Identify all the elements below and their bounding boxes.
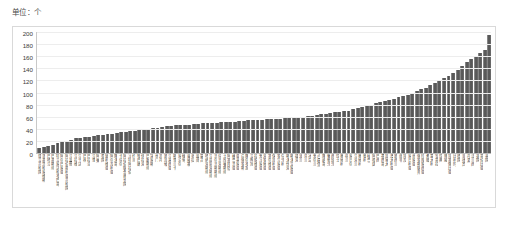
grid-line	[37, 32, 491, 33]
x-axis-labels: 建立共和国圣基茨和尼维斯巴哈马巴基斯坦特立尼达和多巴哥阿尔巴尼亚阿拉伯叙利亚共和…	[36, 154, 488, 206]
bar	[424, 88, 428, 153]
y-axis: 200180160140120100806040200	[13, 34, 35, 152]
bar	[292, 117, 296, 153]
bar	[110, 134, 114, 153]
grid-line	[37, 129, 491, 130]
x-axis-tick-label: 美国	[483, 154, 488, 204]
bar	[356, 108, 360, 153]
bar	[469, 59, 473, 153]
grid-line	[37, 105, 491, 106]
bar	[278, 119, 282, 153]
bar	[328, 113, 332, 153]
bar	[387, 100, 391, 153]
bar	[96, 135, 100, 153]
y-axis-tick-label: 100	[23, 92, 33, 98]
bar	[83, 137, 87, 153]
grid-line	[37, 56, 491, 57]
bar	[210, 123, 214, 153]
bar	[92, 136, 96, 153]
bar	[46, 146, 50, 153]
bar	[315, 115, 319, 153]
bar	[115, 133, 119, 153]
bar	[410, 93, 414, 153]
grid-line	[37, 93, 491, 94]
bar	[219, 122, 223, 153]
bar	[101, 135, 105, 153]
bar	[319, 114, 323, 153]
bar	[128, 131, 132, 153]
bar	[165, 126, 169, 153]
bar	[283, 118, 287, 153]
bar	[106, 134, 110, 153]
y-axis-tick-label: 40	[26, 128, 33, 134]
y-axis-tick-label: 160	[23, 55, 33, 61]
bar	[269, 119, 273, 153]
y-axis-tick-label: 120	[23, 79, 33, 85]
grid-line	[37, 80, 491, 81]
bar	[487, 35, 491, 153]
bar	[246, 120, 250, 153]
bar	[256, 120, 260, 153]
bar	[206, 123, 210, 153]
grid-line	[37, 141, 491, 142]
bar	[56, 143, 60, 153]
bar	[260, 120, 264, 153]
bar	[483, 50, 487, 153]
bar	[51, 145, 55, 153]
bar	[360, 107, 364, 153]
bar	[124, 132, 128, 153]
bar	[415, 91, 419, 153]
bar	[37, 148, 41, 153]
bar	[287, 118, 291, 153]
bar	[87, 137, 91, 153]
bar	[265, 119, 269, 153]
bar	[224, 122, 228, 153]
bar	[169, 126, 173, 153]
bar	[465, 62, 469, 153]
chart-page: 单位：个 200180160140120100806040200 建立共和国圣基…	[0, 0, 508, 249]
bar	[306, 116, 310, 153]
bar	[42, 147, 46, 153]
y-axis-tick-label: 0	[30, 152, 33, 158]
y-axis-tick-label: 60	[26, 116, 33, 122]
bar	[296, 117, 300, 153]
grid-line	[37, 117, 491, 118]
y-axis-tick-label: 200	[23, 31, 33, 37]
y-axis-tick-label: 80	[26, 104, 33, 110]
y-axis-tick-label: 180	[23, 43, 33, 49]
bar	[419, 89, 423, 153]
bar	[333, 112, 337, 153]
bar	[242, 121, 246, 153]
bar	[324, 114, 328, 153]
grid-line	[37, 68, 491, 69]
bar	[215, 123, 219, 153]
bar	[60, 142, 64, 153]
bar	[237, 121, 241, 153]
bar	[65, 141, 69, 153]
bar	[397, 97, 401, 153]
unit-label: 单位：个	[12, 6, 41, 17]
bar	[392, 99, 396, 153]
bar	[337, 112, 341, 153]
bar	[233, 122, 237, 153]
bar	[301, 117, 305, 153]
bar	[428, 85, 432, 153]
bar	[119, 132, 123, 153]
bar	[310, 116, 314, 154]
bar	[251, 120, 255, 153]
bar	[228, 122, 232, 153]
y-axis-tick-label: 20	[26, 140, 33, 146]
bar	[378, 102, 382, 153]
y-axis-tick-label: 140	[23, 67, 33, 73]
bar	[274, 119, 278, 153]
grid-line	[37, 44, 491, 45]
bar	[201, 123, 205, 153]
bar	[383, 101, 387, 153]
